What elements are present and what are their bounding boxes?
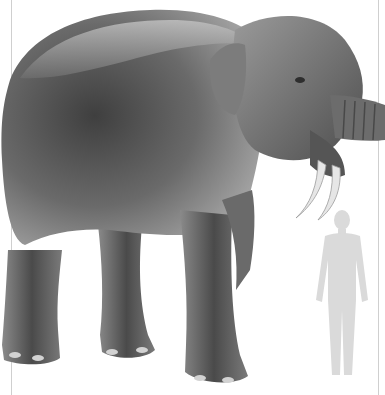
tusks — [296, 160, 340, 220]
deinotherium-illustration — [0, 0, 385, 395]
trunk — [330, 95, 385, 141]
human-scale-silhouette — [316, 210, 368, 375]
eye — [295, 77, 305, 83]
rear-right-leg — [98, 225, 155, 358]
rear-left-leg — [2, 250, 62, 364]
